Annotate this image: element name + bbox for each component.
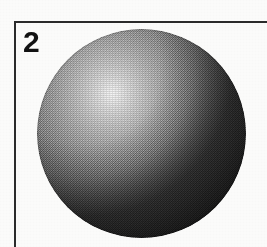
figure-panel: 2 [0, 0, 267, 247]
figure-frame-top-rule [14, 21, 267, 23]
shaded-sphere [37, 29, 246, 238]
sphere-terminator-shade [37, 29, 246, 238]
panel-label: 2 [23, 27, 39, 57]
figure-frame-left-rule [14, 21, 16, 247]
